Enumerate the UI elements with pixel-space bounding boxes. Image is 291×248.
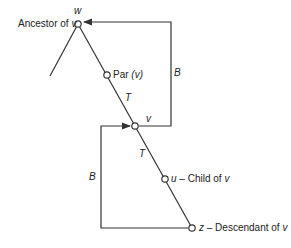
- edge-label-t-upper: T: [125, 92, 131, 104]
- node-z: [189, 225, 195, 231]
- node-w-name: w: [74, 5, 81, 17]
- node-u: [162, 176, 168, 182]
- edge-label-b-right: B: [174, 67, 181, 79]
- node-w-label: Ancestor of v: [18, 18, 76, 30]
- edge-label-t-lower: T: [139, 148, 145, 160]
- node-v: [132, 123, 138, 129]
- node-v-name: v: [146, 113, 151, 125]
- node-par-label: Par (v): [113, 69, 143, 81]
- node-u-label: u – Child of v: [171, 173, 229, 185]
- edge-label-b-left: B: [89, 171, 96, 183]
- node-z-label: z – Descendant of v: [199, 222, 287, 234]
- node-par-v: [104, 72, 110, 78]
- tree-edge-w-left: [50, 24, 78, 76]
